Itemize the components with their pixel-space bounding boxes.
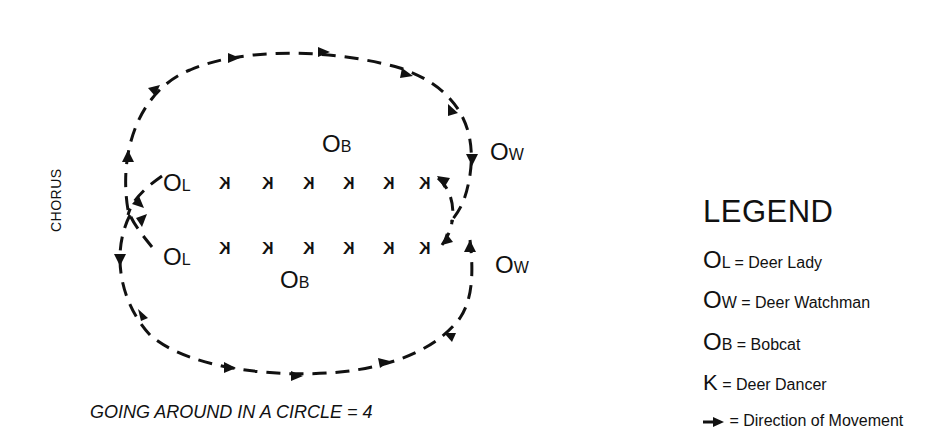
watchman-bottom: OW [495,253,529,277]
deer-dancer: K [383,241,395,257]
deer-lady-bottom: OL [163,245,191,269]
arrow-icon [228,53,240,63]
deer-dancer: K [419,241,431,257]
arrow-icon [224,362,236,373]
legend-label: = Bobcat [737,336,801,353]
arrow-icon [437,176,450,188]
symbol-sub: W [509,146,524,163]
symbol-main: O [703,246,722,273]
left-crossover-lower [128,210,152,247]
symbol-main: O [495,251,514,278]
bobcat-top: OB [322,132,351,156]
arrow-icon [444,333,456,342]
legend-title: LEGEND [703,194,833,230]
symbol-main: O [703,328,722,355]
deer-dancer: K [219,176,231,192]
deer-dancer: K [262,176,274,192]
chorus-label: CHORUS [48,168,64,232]
arrow-icon [466,154,478,166]
deer-dancer: K [303,241,315,257]
legend-item-bobcat: OB = Bobcat [703,328,800,356]
arrow-icon [136,214,147,227]
symbol-sub: B [341,138,352,155]
arrow-icon [114,254,126,266]
symbol-sub: L [722,254,730,271]
deer-dancer: K [383,176,395,192]
symbol-sub: B [299,274,310,291]
symbol-main: O [322,130,341,157]
deer-dancer: K [343,241,355,257]
legend-label: = Deer Watchman [741,294,870,311]
symbol-main: O [280,266,299,293]
deer-dancer: K [303,176,315,192]
deer-dancer-symbol: K [703,370,718,395]
deer-dancer: K [343,176,355,192]
legend-item-direction: = Direction of Movement [703,412,903,430]
arrow-icon [122,150,134,162]
bobcat-bottom: OB [280,268,309,292]
arrow-icon [132,196,144,208]
legend-item-deer-dancer: K = Deer Dancer [703,370,827,396]
symbol-main: O [163,169,182,196]
arrow-icon [703,416,725,428]
arrow-icon [400,68,413,78]
deer-dancer: K [419,176,431,192]
deer-lady-top: OL [163,171,191,195]
symbol-sub: L [182,177,191,194]
bottom-path [120,215,472,374]
arrow-icons [114,47,478,381]
symbol-main: O [490,138,509,165]
arrow-icon [464,240,476,252]
left-crossover-upper [128,176,162,215]
symbol-main: O [703,286,722,313]
symbol-sub: B [722,336,733,353]
symbol-main: O [163,243,182,270]
deer-dancer: K [219,241,231,257]
diagram-caption: GOING AROUND IN A CIRCLE = 4 [90,402,373,423]
arrow-icon [138,309,148,321]
symbol-sub: W [514,259,529,276]
legend-item-deer-lady: OL = Deer Lady [703,246,822,274]
legend-label: = Deer Lady [734,254,822,271]
legend-label: = Direction of Movement [729,412,903,429]
deer-dancer: K [262,241,274,257]
legend-item-deer-watchman: OW = Deer Watchman [703,286,870,314]
symbol-sub: L [182,251,191,268]
legend-label: = Deer Dancer [722,376,827,393]
watchman-top: OW [490,140,524,164]
symbol-sub: W [722,294,737,311]
